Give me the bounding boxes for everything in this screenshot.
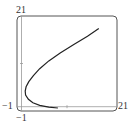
x-max-label: 21 bbox=[118, 101, 128, 111]
chart bbox=[0, 0, 130, 127]
curve-line bbox=[25, 29, 99, 109]
y-max-label: 21 bbox=[16, 5, 26, 15]
plot-frame bbox=[17, 16, 117, 111]
x-min-label: −1 bbox=[16, 113, 27, 123]
y-min-label: −1 bbox=[2, 101, 13, 111]
